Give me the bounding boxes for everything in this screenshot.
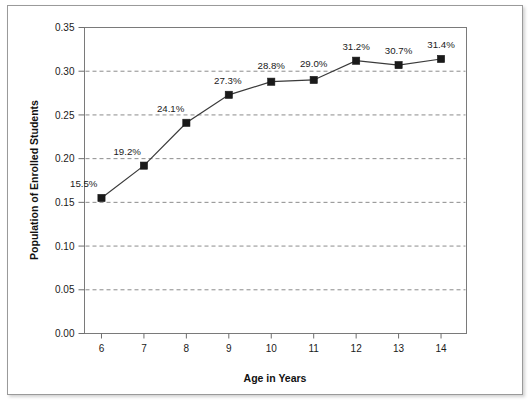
data-point-label: 27.3%	[214, 75, 242, 86]
y-axis-tick-label: 0.15	[55, 197, 75, 208]
data-point-marker	[140, 162, 147, 169]
data-point-label: 31.2%	[342, 41, 370, 52]
data-point-marker	[183, 119, 190, 126]
x-axis-tick-label: 11	[309, 343, 320, 354]
y-axis-tick-label: 0.35	[55, 22, 75, 33]
x-axis-tick-label: 12	[351, 343, 363, 354]
x-axis-tick-label: 8	[184, 343, 190, 354]
x-axis-tick-label: 7	[141, 343, 147, 354]
line-chart-canvas: 15.5%19.2%24.1%27.3%28.8%29.0%31.2%30.7%…	[0, 0, 531, 403]
x-axis-tick-label: 14	[435, 343, 447, 354]
x-axis-tick-label: 10	[266, 343, 278, 354]
plot-area-frame	[85, 28, 467, 334]
x-axis-tick-label: 9	[226, 343, 232, 354]
data-point-marker	[353, 57, 360, 64]
data-point-label: 28.8%	[258, 60, 286, 71]
data-point-marker	[98, 194, 105, 201]
x-axis-title: Age in Years	[244, 372, 307, 384]
data-point-marker	[310, 76, 317, 83]
data-point-label: 19.2%	[113, 146, 141, 157]
x-axis-tick-label: 6	[99, 343, 105, 354]
x-axis-tick-labels: 67891011121314	[99, 343, 447, 354]
y-axis-tick-label: 0.00	[55, 328, 75, 339]
gridlines-group	[86, 71, 466, 290]
chart-figure: 15.5%19.2%24.1%27.3%28.8%29.0%31.2%30.7%…	[0, 0, 531, 403]
y-axis-tick-label: 0.10	[55, 241, 75, 252]
data-point-marker	[437, 55, 444, 62]
plot-axes	[85, 28, 467, 334]
y-axis-title: Population of Enrolled Students	[28, 100, 40, 260]
y-axis-tick-label: 0.05	[55, 284, 75, 295]
data-point-markers	[98, 55, 445, 201]
y-axis-tick-label: 0.30	[55, 66, 75, 77]
data-point-label: 24.1%	[157, 103, 185, 114]
data-point-marker	[395, 61, 402, 68]
data-point-marker	[268, 78, 275, 85]
data-point-label: 30.7%	[385, 45, 413, 56]
x-axis-tick-label: 13	[393, 343, 405, 354]
data-point-label: 29.0%	[300, 58, 328, 69]
y-axis-tick-label: 0.25	[55, 110, 75, 121]
x-axis-ticks	[101, 334, 441, 339]
data-point-label: 31.4%	[427, 39, 455, 50]
data-point-marker	[225, 91, 232, 98]
y-axis-tick-label: 0.20	[55, 153, 75, 164]
data-point-label: 15.5%	[70, 178, 98, 189]
